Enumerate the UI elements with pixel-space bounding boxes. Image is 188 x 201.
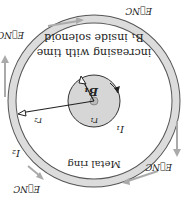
label-enc-bl: E⃗NC [13, 184, 41, 194]
label-ring: Metal ring [67, 159, 121, 170]
label-i1: I₁ [116, 124, 125, 135]
caption-line1: B₁ inside solenoid [44, 31, 143, 44]
label-enc-tl: E⃗NC [0, 30, 25, 40]
figure: B₁ inside solenoid increasing with time … [0, 0, 188, 201]
label-i2: I₂ [12, 148, 21, 159]
label-r2: r₂ [34, 116, 42, 126]
label-enc-br: E⃗NC [145, 162, 173, 172]
caption-line2: increasing with time [37, 46, 152, 59]
label-r1: r₁ [90, 116, 98, 126]
label-enc-tr: E⃗NC [125, 6, 153, 16]
label-b1: B₁ [84, 85, 99, 98]
